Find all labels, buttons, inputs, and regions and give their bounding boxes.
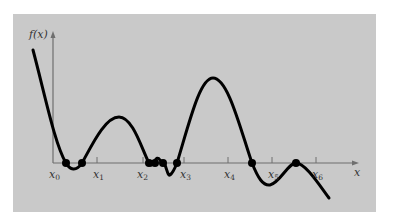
root-point	[292, 159, 300, 167]
root-point	[159, 159, 167, 167]
x-axis-label: x	[354, 166, 361, 179]
root-point	[62, 159, 70, 167]
root-point	[248, 159, 256, 167]
root-point	[78, 159, 86, 167]
root-point	[151, 159, 159, 167]
plot-panel	[13, 14, 376, 212]
root-point	[173, 159, 181, 167]
y-axis-label: f(x)	[28, 28, 48, 41]
function-roots-figure: f(x) x x0 x1 x2 x3 x4 x5 x6	[0, 0, 395, 216]
